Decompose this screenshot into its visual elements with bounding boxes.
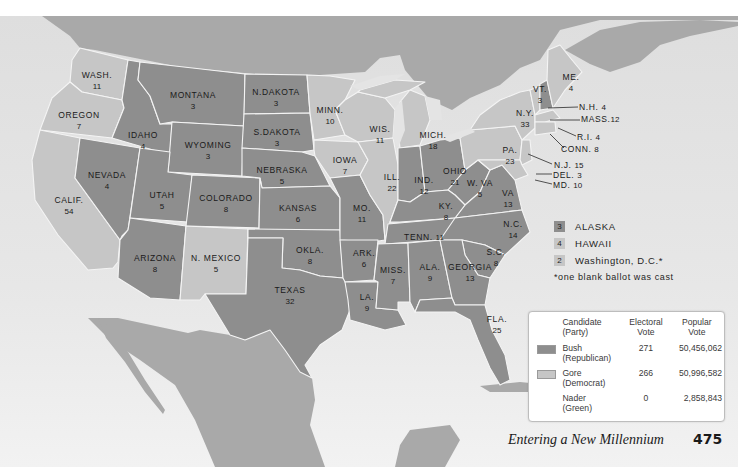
label-nevada: NEVADA4: [88, 170, 126, 192]
label-ind: IND.12: [414, 175, 433, 197]
label-nc: N.C.14: [503, 219, 522, 241]
label-mo: MO.11: [353, 203, 371, 225]
callout-conn: CONN. 8: [561, 144, 599, 155]
header-popular: PopularVote: [670, 317, 724, 343]
label-oregon: OREGON7: [58, 110, 99, 132]
label-wash: WASH.11: [82, 70, 113, 92]
header-candidate: Candidate(Party): [560, 317, 622, 343]
off-map-alaska: 3ALASKA: [554, 218, 663, 235]
canada-maritimes: [565, 20, 738, 72]
label-ky: KY.8: [439, 201, 453, 223]
results-legend-box: Candidate(Party) ElectoralVote PopularVo…: [528, 311, 725, 422]
header-electoral: ElectoralVote: [622, 317, 670, 343]
off-map-legend: 3ALASKA 4HAWAII 2Washington, D.C.*: [554, 218, 663, 269]
footnote: *one blank ballot was cast: [554, 272, 674, 282]
label-mich: MICH.18: [419, 130, 446, 152]
green-swatch-empty: [537, 395, 554, 402]
off-map-dc: 2Washington, D.C.*: [554, 252, 663, 269]
label-me: ME.4: [563, 72, 580, 94]
election-map-page: WASH.11 OREGON7 CALIF.54 IDAHO4 NEVADA4 …: [0, 0, 738, 467]
label-arizona: ARIZONA8: [134, 253, 176, 275]
callout-nh: N.H. 4: [579, 102, 606, 113]
label-ill: ILL.22: [384, 172, 401, 194]
table-row-bush: Bush(Republican) 271 50,456,062: [535, 343, 724, 368]
label-iowa: IOWA7: [333, 155, 358, 177]
callout-ri: R.I. 4: [577, 132, 600, 143]
page-number: 475: [693, 431, 722, 447]
alaska-swatch: 3: [554, 221, 565, 232]
label-sdakota: S.DAKOTA3: [253, 127, 300, 149]
yucatan: [395, 425, 460, 467]
running-footer-title: Entering a New Millennium: [508, 432, 664, 448]
callout-md: MD. 10: [553, 180, 582, 191]
label-tenn: TENN. 11: [404, 232, 444, 243]
callout-mass: MASS.12: [581, 114, 619, 125]
state-conn-ri: [535, 122, 556, 135]
label-wyoming: WYOMING3: [185, 140, 232, 162]
label-okla: OKLA.8: [296, 245, 324, 267]
results-table: Candidate(Party) ElectoralVote PopularVo…: [535, 317, 724, 418]
label-vt: VT.3: [533, 84, 547, 106]
label-va: VA13: [502, 188, 514, 210]
label-colorado: COLORADO8: [199, 193, 252, 215]
label-ndakota: N.DAKOTA3: [252, 87, 300, 109]
label-nebraska: NEBRASKA5: [256, 165, 307, 187]
label-ny: N.Y.33: [516, 108, 534, 130]
label-ohio: OHIO21: [443, 166, 467, 188]
label-miss: MISS.7: [380, 265, 406, 287]
label-nmexico: N. MEXICO5: [191, 253, 241, 275]
label-ala: ALA.9: [420, 262, 441, 284]
republican-swatch: [537, 345, 556, 354]
state-fla: [415, 298, 510, 385]
label-wis: WIS.11: [370, 124, 391, 146]
label-montana: MONTANA3: [170, 90, 216, 112]
label-idaho: IDAHO4: [128, 130, 158, 152]
table-row-nader: Nader(Green) 0 2,858,843: [535, 393, 724, 418]
state-nj: [520, 140, 532, 165]
table-row-gore: Gore(Democrat) 266 50,996,582: [535, 368, 724, 393]
hawaii-swatch: 4: [554, 238, 565, 249]
label-la: LA.9: [360, 292, 375, 314]
label-georgia: GEORGIA13: [448, 262, 492, 284]
label-kansas: KANSAS6: [279, 203, 317, 225]
democrat-swatch: [537, 370, 556, 379]
label-ark: ARK.6: [353, 248, 375, 270]
dc-swatch: 2: [554, 255, 565, 266]
label-wva: W. VA5: [467, 178, 493, 200]
label-fla: FLA.25: [487, 314, 507, 336]
label-pa: PA.23: [503, 145, 518, 167]
label-texas: TEXAS32: [275, 285, 306, 307]
label-calif: CALIF.54: [54, 195, 83, 217]
label-minn: MINN.10: [316, 105, 343, 127]
off-map-hawaii: 4HAWAII: [554, 235, 663, 252]
label-utah: UTAH5: [150, 190, 175, 212]
